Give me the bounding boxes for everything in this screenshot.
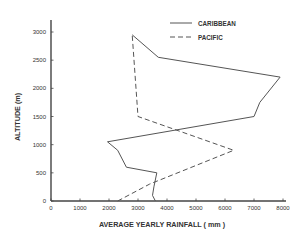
y-tick-label: 1000 — [33, 142, 47, 148]
y-tick-label: 2000 — [33, 85, 47, 91]
x-tick-label: 1000 — [73, 205, 87, 211]
x-tick-label: 6000 — [218, 205, 232, 211]
x-tick-label: 0 — [49, 205, 53, 211]
y-axis: 050010001500200025003000 — [33, 20, 54, 204]
plot-series — [108, 35, 281, 201]
legend: CARIBBEAN PACIFIC — [170, 20, 236, 41]
x-tick-label: 5000 — [189, 205, 203, 211]
y-axis-title: ALTITUDE (m) — [13, 92, 22, 141]
x-tick-label: 2000 — [102, 205, 116, 211]
y-tick-label: 0 — [43, 198, 47, 204]
legend-label-caribbean: CARIBBEAN — [198, 20, 236, 27]
y-tick-label: 3000 — [33, 29, 47, 35]
x-axis-title: AVERAGE YEARLY RAINFALL ( mm ) — [99, 220, 226, 229]
y-tick-label: 1500 — [33, 114, 47, 120]
series-caribbean — [108, 35, 281, 201]
x-tick-label: 3000 — [131, 205, 145, 211]
x-tick-label: 7000 — [247, 205, 261, 211]
rainfall-altitude-chart: 010002000300040005000600070008000 050010… — [0, 0, 299, 240]
y-tick-label: 500 — [36, 170, 47, 176]
x-tick-label: 8000 — [276, 205, 290, 211]
legend-label-pacific: PACIFIC — [198, 34, 223, 41]
x-axis: 010002000300040005000600070008000 — [49, 199, 290, 212]
x-tick-label: 4000 — [160, 205, 174, 211]
y-tick-label: 2500 — [33, 57, 47, 63]
